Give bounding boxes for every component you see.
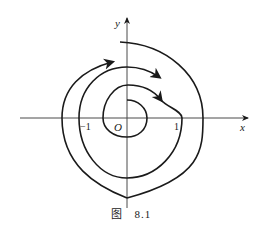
y-axis-label: y [115, 18, 120, 29]
caption-prefix: 图 [111, 208, 123, 220]
tick-label-pos-one: 1 [174, 122, 179, 132]
figure-caption: 图 8.1 [0, 205, 262, 221]
tick-label-neg-one: −1 [80, 122, 91, 132]
origin-label: O [114, 122, 122, 133]
caption-number: 8.1 [135, 208, 152, 220]
spiral-diagram [0, 0, 262, 234]
spiral-curve [103, 85, 161, 137]
spiral-curve-outer-top [120, 42, 203, 198]
spiral-curve-mid [79, 67, 182, 178]
x-axis-label: x [240, 122, 245, 133]
